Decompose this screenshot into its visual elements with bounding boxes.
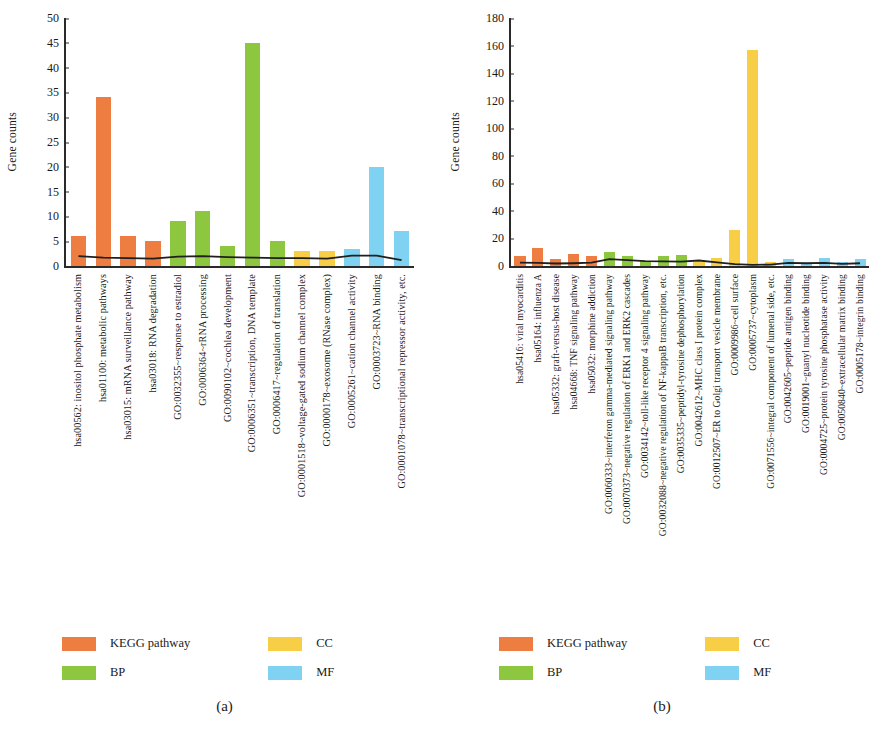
x-axis-label: GO:0001078~transcriptional repressor act… <box>396 274 406 489</box>
x-label-slot: GO:0001078~transcriptional repressor act… <box>389 270 414 600</box>
bar[interactable] <box>783 259 794 266</box>
plot-area-b: Gene counts 020406080100120140160180 <box>441 0 883 285</box>
bar-slot <box>165 18 190 266</box>
bar-slot <box>116 18 141 266</box>
bar-slot <box>654 18 672 266</box>
bar[interactable] <box>270 241 285 266</box>
y-tick-160: 160 <box>486 38 509 53</box>
y-axis-ticks-b: 020406080100120140160180 <box>463 18 509 266</box>
bar[interactable] <box>195 211 210 266</box>
bar-slot <box>215 18 240 266</box>
x-label-slot: GO:0032355~response to estradiol <box>165 270 190 600</box>
bar[interactable] <box>568 254 579 266</box>
bar[interactable] <box>729 230 740 266</box>
legend-item[interactable]: BP <box>62 665 190 680</box>
bar[interactable] <box>855 259 866 266</box>
x-label-slot: GO:0050840~extracellular matrix binding <box>833 270 851 600</box>
x-label-slot: GO:0003723~RNA binding <box>364 270 389 600</box>
x-axis-label: GO:0060333~interferon gamma-mediated sig… <box>605 274 615 514</box>
legend-item[interactable]: KEGG pathway <box>499 636 627 651</box>
x-axis-label: hsa05032: morphine addiction <box>587 274 597 394</box>
bar[interactable] <box>220 246 235 266</box>
x-label-slot: GO:0005261~cation channel activity <box>339 270 364 600</box>
bar[interactable] <box>837 262 848 266</box>
bar[interactable] <box>819 258 830 266</box>
x-label-slot: GO:0012507~ER to Golgi transport vesicle… <box>708 270 726 600</box>
legend-item[interactable]: KEGG pathway <box>62 636 190 651</box>
bar-slot <box>389 18 414 266</box>
x-axis-label: GO:0009986~cell surface <box>730 274 740 376</box>
bar[interactable] <box>676 255 687 266</box>
bar-slot <box>364 18 389 266</box>
bar-slot <box>240 18 265 266</box>
bar[interactable] <box>711 258 722 266</box>
y-tick-180: 180 <box>486 11 509 26</box>
bar[interactable] <box>604 252 615 266</box>
x-axis-labels-a: hsa00562: inositol phosphate metabolismh… <box>66 270 414 600</box>
bar[interactable] <box>394 231 409 266</box>
legend-label: CC <box>316 636 333 651</box>
x-axis-label: GO:0005261~cation channel activity <box>347 274 357 428</box>
bar[interactable] <box>586 256 597 266</box>
bar-slot <box>636 18 654 266</box>
bar[interactable] <box>622 256 633 266</box>
bar[interactable] <box>801 263 812 266</box>
panel-a: Gene counts 05101520253035404550 hsa0056… <box>0 0 441 730</box>
bar-slot <box>66 18 91 266</box>
legend-item[interactable]: BP <box>499 665 627 680</box>
bar[interactable] <box>170 221 185 266</box>
bar[interactable] <box>245 43 260 266</box>
x-label-slot: GO:0032088~negative regulation of NF-kap… <box>654 270 672 600</box>
bar[interactable] <box>369 167 384 266</box>
bar[interactable] <box>532 248 543 266</box>
x-axis-label: GO:0034142~toll-like receptor 4 signalin… <box>640 274 650 478</box>
x-label-slot: hsa01100: metabolic pathways <box>91 270 116 600</box>
y-tick-120: 120 <box>486 93 509 108</box>
bar[interactable] <box>550 259 561 266</box>
bar[interactable] <box>514 256 525 266</box>
bar-slot <box>511 18 529 266</box>
x-axis-label: GO:0071556~integral component of lumenal… <box>766 274 776 489</box>
legend-label: KEGG pathway <box>547 636 627 651</box>
x-label-slot: hsa05032: morphine addiction <box>583 270 601 600</box>
y-tick-60: 60 <box>492 176 509 191</box>
x-axis-label: hsa01100: metabolic pathways <box>98 274 108 402</box>
legend-item[interactable]: MF <box>705 665 771 680</box>
y-axis-label-a: Gene counts <box>6 112 18 171</box>
bar[interactable] <box>658 256 669 266</box>
bar[interactable] <box>765 262 776 266</box>
bar[interactable] <box>294 251 309 266</box>
bar[interactable] <box>640 261 651 267</box>
bar-slot <box>618 18 636 266</box>
x-axis-label: GO:0070373~negative regulation of ERK1 a… <box>623 274 633 524</box>
legend-item[interactable]: CC <box>705 636 771 651</box>
bar-slot <box>601 18 619 266</box>
x-label-slot: hsa05416: viral myocarditis <box>511 270 529 600</box>
y-tick-35: 35 <box>47 85 64 100</box>
bar[interactable] <box>344 249 359 266</box>
panel-caption-b: (b) <box>441 698 883 715</box>
figure-container: Gene counts 05101520253035404550 hsa0056… <box>0 0 883 730</box>
bar[interactable] <box>71 236 86 266</box>
bar[interactable] <box>145 241 160 266</box>
legend-label: CC <box>753 636 770 651</box>
bar[interactable] <box>96 97 111 266</box>
y-tick-25: 25 <box>47 135 64 150</box>
legend-item[interactable]: MF <box>268 665 334 680</box>
x-label-slot: hsa04668: TNF signaling pathway <box>565 270 583 600</box>
bar[interactable] <box>120 236 135 266</box>
bar[interactable] <box>693 262 704 266</box>
x-label-slot: hsa05332: graft-versus-host disease <box>547 270 565 600</box>
x-label-slot: GO:0019001~guanyl nucleotide binding <box>797 270 815 600</box>
legend-item[interactable]: CC <box>268 636 334 651</box>
x-axis-label: GO:0004725~protein tyrosine phosphatase … <box>819 274 829 475</box>
bar-slot <box>726 18 744 266</box>
x-axis-label: GO:0003723~RNA binding <box>372 274 382 390</box>
bar[interactable] <box>319 251 334 266</box>
bar[interactable] <box>747 50 758 266</box>
x-axis-label: hsa05416: viral myocarditis <box>515 274 525 384</box>
x-axis-label: hsa03015: mRNA surveillance pathway <box>123 274 133 440</box>
y-tick-45: 45 <box>47 35 64 50</box>
x-label-slot: GO:0060333~interferon gamma-mediated sig… <box>601 270 619 600</box>
y-tick-40: 40 <box>492 203 509 218</box>
